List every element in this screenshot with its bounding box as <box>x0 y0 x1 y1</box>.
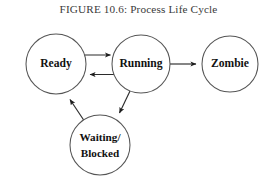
node-waiting-blocked-label-line2: Blocked <box>81 147 120 159</box>
node-ready[interactable]: Ready <box>26 34 86 94</box>
figure-container: FIGURE 10.6: Process Life Cycle <box>0 0 277 183</box>
node-running-label: Running <box>119 57 162 70</box>
process-life-cycle-diagram: Ready Running Zombie Waiting/ Blocked <box>0 0 277 183</box>
node-running[interactable]: Running <box>112 35 170 93</box>
node-zombie-label: Zombie <box>211 57 249 70</box>
edge-running-to-ready <box>90 74 117 75</box>
edge-waiting-to-ready <box>70 100 84 121</box>
edge-running-to-waiting <box>120 91 131 113</box>
node-zombie[interactable]: Zombie <box>202 36 258 92</box>
edge-ready-to-running <box>85 55 111 73</box>
node-ready-label: Ready <box>40 57 72 70</box>
node-waiting-blocked-circle <box>70 115 130 175</box>
node-waiting-blocked-label-line1: Waiting/ <box>79 131 121 143</box>
node-waiting-blocked[interactable]: Waiting/ Blocked <box>70 115 130 175</box>
